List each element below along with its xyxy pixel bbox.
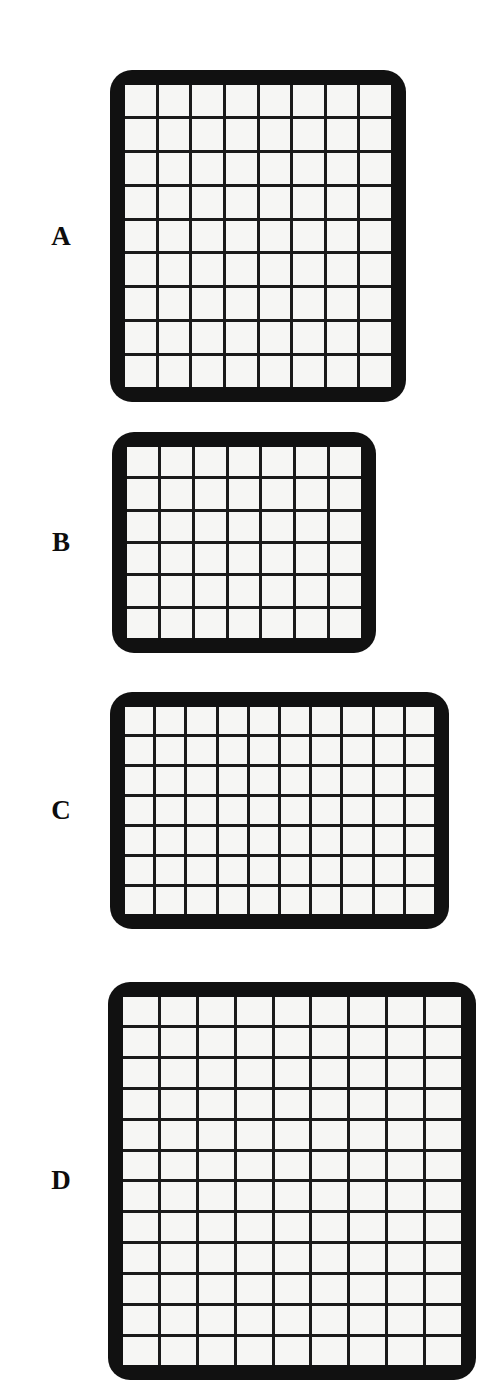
grid-cell: [260, 356, 291, 387]
grid-cell: [226, 221, 257, 252]
grid-cell: [226, 356, 257, 387]
grid-cell: [161, 1121, 196, 1149]
grid-cell: [187, 827, 215, 854]
panel-label-a: A: [38, 223, 84, 250]
grid-cell: [312, 997, 347, 1025]
grid-cell: [192, 119, 223, 150]
grid-cell: [125, 187, 156, 218]
grid-cell: [260, 119, 291, 150]
grid-cell: [426, 1337, 461, 1365]
grid-cell: [199, 1121, 234, 1149]
grid-cell: [343, 737, 371, 764]
grid-cell: [275, 1152, 310, 1180]
grid-cell: [159, 356, 190, 387]
grid-cell: [161, 1337, 196, 1365]
grid-cell: [187, 857, 215, 884]
grid-cell: [293, 288, 324, 319]
grid-cell: [260, 322, 291, 353]
grid-cell: [312, 1182, 347, 1210]
grid-cell: [226, 187, 257, 218]
grid-cell: [275, 1337, 310, 1365]
grid-cell: [219, 827, 247, 854]
grid-cell: [195, 479, 226, 508]
grid-cell: [250, 797, 278, 824]
grid-cell: [312, 1306, 347, 1334]
grid-cell: [360, 221, 391, 252]
grid-cell: [275, 1028, 310, 1056]
grid-cell: [199, 1213, 234, 1241]
grid-cell: [123, 1121, 158, 1149]
grid-cell: [360, 254, 391, 285]
grid-cell: [262, 479, 293, 508]
grid-cell: [293, 322, 324, 353]
grid-cell: [123, 1306, 158, 1334]
grid-cell: [275, 1059, 310, 1087]
grid-cell: [237, 1275, 272, 1303]
grid-cell: [388, 1306, 423, 1334]
grid-cell: [296, 479, 327, 508]
panel-label-b: B: [38, 529, 84, 556]
grid-cell: [360, 153, 391, 184]
grid-cell: [195, 512, 226, 541]
grid-cell: [125, 288, 156, 319]
grid-cell: [250, 827, 278, 854]
grid-cell: [293, 221, 324, 252]
grid-cell: [262, 609, 293, 638]
grid-cell: [237, 1182, 272, 1210]
grid-cell: [237, 1306, 272, 1334]
grid-cell: [296, 447, 327, 476]
grid-cell: [199, 1275, 234, 1303]
grid-cell: [229, 447, 260, 476]
grid-cell: [388, 1244, 423, 1272]
grid-cell: [426, 1275, 461, 1303]
grid-cell: [187, 707, 215, 734]
grid-cell: [127, 479, 158, 508]
grid-cell: [161, 1059, 196, 1087]
grid-cell: [275, 1306, 310, 1334]
grid-cell: [229, 512, 260, 541]
grid-cell: [237, 997, 272, 1025]
grid-cell: [388, 1028, 423, 1056]
grid-cell: [127, 512, 158, 541]
grid-cell: [312, 827, 340, 854]
grid-cell: [250, 737, 278, 764]
grid-cell: [260, 254, 291, 285]
grid-cell: [281, 707, 309, 734]
grid-cell: [388, 1275, 423, 1303]
grid-cell: [350, 1306, 385, 1334]
grid-cell: [161, 1306, 196, 1334]
grid-cell: [161, 1275, 196, 1303]
grid-cell: [159, 153, 190, 184]
grid-cell: [219, 767, 247, 794]
grid-cell: [219, 737, 247, 764]
grid-cell: [229, 479, 260, 508]
grid-cell: [330, 447, 361, 476]
grid-cell: [281, 767, 309, 794]
grid-cell: [350, 1152, 385, 1180]
grid-matrix-a: [125, 85, 391, 387]
grid-cell: [360, 119, 391, 150]
grid-cell: [187, 797, 215, 824]
grid-cell: [406, 797, 434, 824]
grid-cell: [275, 1121, 310, 1149]
grid-cell: [156, 707, 184, 734]
grid-cell: [330, 512, 361, 541]
grid-cell: [375, 887, 403, 914]
grid-cell: [330, 576, 361, 605]
grid-cell: [312, 767, 340, 794]
grid-cell: [296, 512, 327, 541]
grid-cell: [327, 322, 358, 353]
grid-cell: [123, 1275, 158, 1303]
grid-cell: [275, 1275, 310, 1303]
grid-cell: [388, 997, 423, 1025]
grid-cell: [296, 576, 327, 605]
grid-cell: [312, 737, 340, 764]
grid-cell: [350, 1182, 385, 1210]
grid-cell: [123, 1337, 158, 1365]
grid-cell: [406, 887, 434, 914]
grid-cell: [237, 1244, 272, 1272]
grid-cell: [192, 153, 223, 184]
grid-cell: [192, 288, 223, 319]
grid-cell: [161, 544, 192, 573]
grid-cell: [219, 887, 247, 914]
